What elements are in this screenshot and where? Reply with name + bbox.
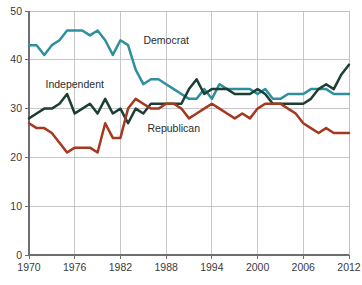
x-tick-label: 1976 [63,261,87,273]
x-tick-label: 2006 [292,261,316,273]
x-tick-marks [29,255,349,259]
x-tick-label: 1970 [17,261,41,273]
series-label-democrat: Democrat [143,34,189,46]
y-tick-label: 20 [10,151,22,163]
line-chart: 01020304050 1970197619821988199420002006… [0,0,362,285]
y-tick-label: 40 [10,53,22,65]
x-tick-label: 2000 [246,261,270,273]
series-label-independent: Independent [46,78,104,90]
y-tick-label: 10 [10,200,22,212]
x-tick-label: 1982 [109,261,133,273]
y-axis-tick-labels: 01020304050 [10,5,22,261]
x-tick-label: 2012 [337,261,361,273]
x-tick-label: 1988 [154,261,178,273]
x-tick-label: 1994 [200,261,224,273]
y-tick-marks [25,11,29,255]
y-tick-label: 0 [16,249,22,261]
y-tick-label: 30 [10,102,22,114]
chart-container: 01020304050 1970197619821988199420002006… [0,0,362,285]
series-label-republican: Republican [147,122,200,134]
x-axis-tick-labels: 19701976198219881994200020062012 [17,261,361,273]
y-tick-label: 50 [10,5,22,17]
